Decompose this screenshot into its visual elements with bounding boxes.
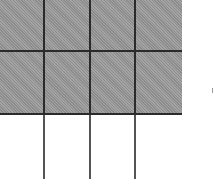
grid-cell-shaded <box>91 52 136 115</box>
grid-cell-white <box>91 115 136 179</box>
fraction-grid <box>0 0 182 179</box>
grid-cell-shaded <box>0 0 45 52</box>
grid-cell-white <box>45 115 91 179</box>
stray-mark <box>212 88 213 93</box>
grid-cell-white <box>136 115 182 179</box>
grid-cell-shaded <box>45 0 91 52</box>
grid-cell-white <box>0 115 45 179</box>
grid-cell-shaded <box>45 52 91 115</box>
grid-cell-shaded <box>0 52 45 115</box>
grid-cell-shaded <box>136 52 182 115</box>
grid-cell-shaded <box>91 0 136 52</box>
grid-cell-shaded <box>136 0 182 52</box>
